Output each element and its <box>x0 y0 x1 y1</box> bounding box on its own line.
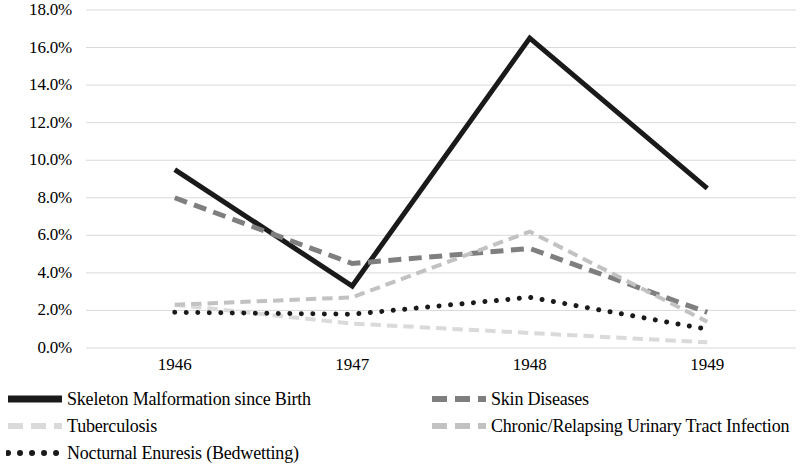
chart-legend: Skeleton Malformation since BirthSkin Di… <box>6 386 806 466</box>
plot-svg <box>86 10 796 348</box>
legend-item-label: Nocturnal Enuresis (Bedwetting) <box>67 443 299 463</box>
y-axis-tick-label: 18.0% <box>29 1 72 18</box>
legend-item[interactable]: Nocturnal Enuresis (Bedwetting) <box>6 440 299 466</box>
dashed-line-swatch <box>6 416 64 436</box>
dotted-line-swatch <box>6 443 64 463</box>
legend-item[interactable]: Skeleton Malformation since Birth <box>6 386 311 412</box>
legend-item-label: Skin Diseases <box>491 389 589 409</box>
series-line <box>175 232 708 322</box>
x-axis-tick-label: 1947 <box>335 355 369 375</box>
y-axis-tick-label: 8.0% <box>37 189 72 206</box>
y-axis-tick-label: 0.0% <box>37 339 72 356</box>
series-line <box>175 297 708 329</box>
x-axis-tick-label: 1946 <box>158 355 192 375</box>
y-axis: 0.0%2.0%4.0%6.0%8.0%10.0%12.0%14.0%16.0%… <box>0 0 80 358</box>
x-axis-tick-label: 1949 <box>690 355 724 375</box>
dashed-line-swatch <box>430 389 488 409</box>
series-line <box>175 38 708 286</box>
legend-item[interactable]: Chronic/Relapsing Urinary Tract Infectio… <box>430 413 789 439</box>
legend-item-label: Tuberculosis <box>67 416 157 436</box>
legend-item[interactable]: Skin Diseases <box>430 386 589 412</box>
y-axis-tick-label: 6.0% <box>37 226 72 243</box>
legend-item-label: Skeleton Malformation since Birth <box>67 389 311 409</box>
dashed-line-swatch <box>430 416 488 436</box>
y-axis-tick-label: 14.0% <box>29 76 72 93</box>
y-axis-tick-label: 12.0% <box>29 114 72 131</box>
plot-area <box>86 10 796 348</box>
y-axis-tick-label: 10.0% <box>29 151 72 168</box>
y-axis-tick-label: 2.0% <box>37 301 72 318</box>
series-line <box>175 198 708 313</box>
legend-item-label: Chronic/Relapsing Urinary Tract Infectio… <box>491 416 789 436</box>
y-axis-tick-label: 16.0% <box>29 39 72 56</box>
x-axis-tick-label: 1948 <box>513 355 547 375</box>
x-axis: 1946194719481949 <box>86 355 796 381</box>
y-axis-tick-label: 4.0% <box>37 264 72 281</box>
legend-item[interactable]: Tuberculosis <box>6 413 157 439</box>
line-chart: 0.0%2.0%4.0%6.0%8.0%10.0%12.0%14.0%16.0%… <box>0 0 808 467</box>
solid-line-swatch <box>6 389 64 409</box>
